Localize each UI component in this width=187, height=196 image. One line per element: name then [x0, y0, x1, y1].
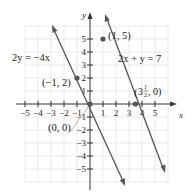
point-3half-0: [133, 101, 138, 106]
x-axis-label: x: [178, 110, 183, 120]
coordinate-plane: −5 −4 −3 −2 −1 1 2 3 4 5 5 4 3 2 1 −1 −2…: [0, 0, 187, 196]
point-label-1-5: (1, 5): [108, 30, 131, 42]
equation-label-2: 2x + y = 7: [118, 53, 161, 64]
point-label-3half-0: ( 3 1 2 , 0): [134, 84, 161, 99]
y-tick-label: 2: [82, 73, 87, 83]
y-tick-label: 4: [82, 47, 87, 57]
point-1-5: [100, 36, 105, 41]
x-tick-label: 3: [127, 108, 132, 118]
x-tick-label: −2: [59, 108, 69, 118]
point-origin: [87, 101, 92, 106]
point-label-origin: (0, 0): [48, 122, 71, 134]
x-tick-label: 1: [101, 108, 106, 118]
equation-label-1: 2y = −4x: [12, 52, 51, 63]
y-tick-label: 5: [82, 34, 87, 44]
x-tick-label: 2: [114, 108, 119, 118]
rest: , 0): [148, 86, 161, 98]
x-tick-label: −4: [33, 108, 43, 118]
y-axis-arrow-icon: [88, 12, 93, 19]
y-tick-label: −4: [76, 151, 86, 161]
arrow-icon: [105, 14, 110, 22]
y-tick-label: 3: [82, 60, 87, 70]
whole: 3: [138, 86, 143, 97]
x-tick-label: 5: [153, 108, 158, 118]
point-label-neg1-2: (−1, 2): [42, 77, 71, 89]
x-axis-arrow-icon: [170, 102, 177, 107]
y-tick-label: −3: [76, 138, 86, 148]
x-tick-label: −3: [46, 108, 56, 118]
y-tick-label: −5: [76, 164, 86, 174]
denominator: 2: [144, 92, 147, 98]
point-neg1-2: [74, 75, 79, 80]
y-tick-label: −1: [76, 112, 86, 122]
y-axis-label: y: [81, 10, 86, 20]
numerator: 1: [144, 84, 147, 90]
y-tick-label: −2: [76, 125, 86, 135]
x-tick-label: −5: [20, 108, 30, 118]
